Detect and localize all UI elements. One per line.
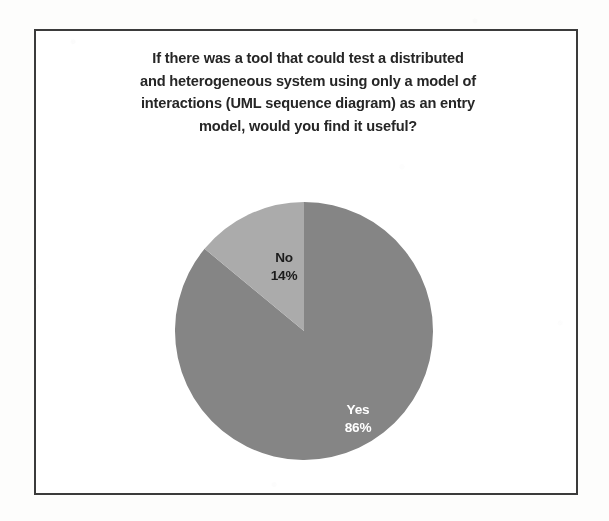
- chart-title: If there was a tool that could test a di…: [82, 47, 534, 137]
- chart-frame: If there was a tool that could test a di…: [34, 29, 578, 495]
- pie-slice-label-yes: Yes 86%: [322, 401, 394, 437]
- pie-chart-svg: [174, 201, 434, 461]
- pie-chart: No 14% Yes 86%: [174, 201, 434, 461]
- pie-slice-label-no: No 14%: [248, 249, 320, 285]
